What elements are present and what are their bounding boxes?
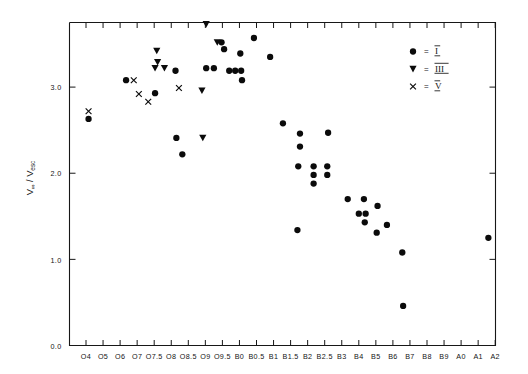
- y-axis-tick-labels: 0.01.02.03.0: [50, 83, 61, 350]
- x-tick-label: B2: [303, 352, 313, 361]
- data-point-circle: [237, 50, 243, 56]
- data-point-circle: [123, 77, 129, 83]
- y-tick-label: 1.0: [50, 256, 61, 265]
- svg-text:V∞ / Vesc: V∞ / Vesc: [25, 160, 36, 195]
- x-tick-label: O5: [98, 352, 108, 361]
- data-point-circle: [172, 68, 178, 74]
- data-point-circle: [297, 143, 303, 149]
- data-point-circle: [324, 172, 330, 178]
- series-V: [86, 77, 182, 114]
- y-tick-label: 0.0: [50, 342, 61, 351]
- data-point-circle: [221, 46, 227, 52]
- data-point-triangle: [199, 135, 206, 142]
- data-point-circle: [239, 77, 245, 83]
- data-point-circle: [238, 68, 244, 74]
- data-point-triangle: [153, 48, 160, 55]
- x-tick-label: B1: [269, 352, 279, 361]
- x-tick-label: O9.5: [214, 352, 231, 361]
- chart-legend: =I=III=V: [409, 46, 448, 91]
- data-point-circle: [310, 172, 316, 178]
- x-tick-label: O7: [132, 352, 142, 361]
- data-point-cross: [86, 108, 92, 114]
- legend-equals: =: [424, 47, 429, 56]
- x-tick-label: B1.5: [283, 352, 299, 361]
- legend-label: I: [435, 46, 438, 56]
- data-point-circle: [294, 227, 300, 233]
- y-tick-label: 2.0: [50, 169, 61, 178]
- data-point-circle: [362, 211, 368, 217]
- chart-canvas: O4O5O6O7O7.5O8O8.5O9O9.5B0B0.5B1B1.5B2B2…: [0, 0, 528, 374]
- data-point-circle: [173, 135, 179, 141]
- legend-equals: =: [424, 65, 429, 74]
- x-tick-label: A0: [456, 352, 466, 361]
- x-tick-label: A2: [490, 352, 500, 361]
- legend-cross-icon: [410, 84, 416, 90]
- data-point-cross: [136, 91, 142, 97]
- data-point-circle: [374, 230, 380, 236]
- data-point-circle: [251, 35, 257, 41]
- data-point-circle: [226, 68, 232, 74]
- x-tick-label: A1: [473, 352, 483, 361]
- data-point-circle: [310, 180, 316, 186]
- data-point-triangle: [161, 65, 168, 72]
- x-tick-label: B9: [439, 352, 449, 361]
- legend-equals: =: [424, 82, 429, 91]
- data-point-circle: [211, 65, 217, 71]
- x-axis-ticks: [86, 23, 495, 346]
- y-axis-title-text: V∞ / Vesc: [25, 160, 36, 195]
- data-point-circle: [295, 163, 301, 169]
- data-point-triangle: [154, 59, 161, 66]
- data-points: [85, 21, 491, 309]
- y-tick-label: 3.0: [50, 83, 61, 92]
- scatter-plot-figure: O4O5O6O7O7.5O8O8.5O9O9.5B0B0.5B1B1.5B2B2…: [0, 0, 528, 374]
- data-point-circle: [374, 203, 380, 209]
- legend-item-III: =III: [409, 63, 448, 73]
- data-point-circle: [267, 54, 273, 60]
- legend-triangle-icon: [409, 66, 416, 73]
- data-point-circle: [325, 130, 331, 136]
- x-tick-label: O8: [166, 352, 176, 361]
- data-point-circle: [361, 196, 367, 202]
- x-tick-label: O9: [200, 352, 210, 361]
- data-point-circle: [203, 65, 209, 71]
- data-point-circle: [297, 130, 303, 136]
- axes-frame: [70, 23, 496, 346]
- legend-item-I: =I: [410, 46, 440, 56]
- data-point-circle: [232, 68, 238, 74]
- data-point-circle: [362, 219, 368, 225]
- data-point-circle: [280, 120, 286, 126]
- legend-item-V: =V: [410, 81, 442, 91]
- x-tick-label: B8: [422, 352, 432, 361]
- x-tick-label: B7: [405, 352, 415, 361]
- data-point-cross: [176, 85, 182, 91]
- legend-label: III: [435, 64, 444, 74]
- data-point-circle: [345, 196, 351, 202]
- data-point-circle: [179, 151, 185, 157]
- legend-label: V: [435, 81, 442, 91]
- legend-circle-icon: [410, 48, 416, 54]
- data-point-triangle: [151, 65, 158, 72]
- x-tick-label: B3: [337, 352, 347, 361]
- data-point-circle: [85, 116, 91, 122]
- data-point-circle: [400, 303, 406, 309]
- y-axis-title: V∞ / Vesc: [25, 160, 36, 195]
- x-tick-label: B6: [388, 352, 398, 361]
- data-point-circle: [399, 249, 405, 255]
- x-tick-label: B0: [235, 352, 245, 361]
- data-point-triangle: [198, 87, 205, 94]
- x-tick-label: O6: [115, 352, 125, 361]
- data-point-circle: [152, 90, 158, 96]
- series-III: [151, 21, 220, 141]
- x-axis-tick-labels: O4O5O6O7O7.5O8O8.5O9O9.5B0B0.5B1B1.5B2B2…: [81, 352, 500, 361]
- data-point-cross: [145, 99, 151, 105]
- x-tick-label: B4: [354, 352, 364, 361]
- data-point-circle: [485, 235, 491, 241]
- x-tick-label: B2.5: [317, 352, 333, 361]
- data-point-triangle: [203, 21, 210, 28]
- data-point-circle: [324, 163, 330, 169]
- x-tick-label: O4: [81, 352, 91, 361]
- x-tick-label: B5: [371, 352, 381, 361]
- data-point-circle: [384, 222, 390, 228]
- x-tick-label: O7.5: [146, 352, 163, 361]
- series-I: [85, 35, 491, 309]
